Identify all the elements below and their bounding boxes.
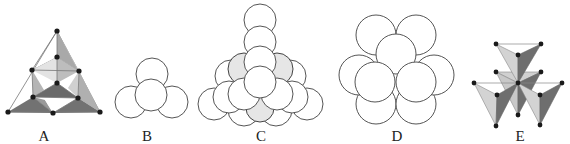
panel-c-sphere-stack xyxy=(198,4,323,126)
vertex-nodes xyxy=(472,42,565,129)
panel-label-c: C xyxy=(256,128,266,144)
panel-a-tetrahedral-framework xyxy=(5,28,102,115)
panel-label-a: A xyxy=(39,128,50,144)
panel-label-b: B xyxy=(142,128,152,144)
panel-label-e: E xyxy=(515,128,524,144)
panel-d-sphere-cluster xyxy=(339,15,454,124)
panel-e-five-tetrahedra xyxy=(472,42,565,129)
panel-b-four-spheres xyxy=(115,58,188,118)
panel-label-d: D xyxy=(392,128,403,144)
figure-canvas: A B C D E xyxy=(0,0,570,144)
